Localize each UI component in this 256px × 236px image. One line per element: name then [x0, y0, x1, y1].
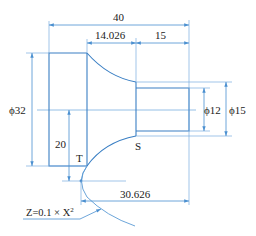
dim-15: 15: [155, 29, 167, 41]
extension-lines: [26, 20, 232, 205]
part-outline: [49, 53, 189, 166]
dim-14026: 14.026: [95, 29, 126, 41]
dim-phi32: ϕ32: [9, 104, 26, 116]
point-s-label: S: [135, 140, 141, 152]
point-t-label: T: [76, 152, 83, 164]
equation-label: Z=0.1 × X2: [26, 206, 74, 218]
dim-40: 40: [113, 11, 125, 23]
dim-phi15: ϕ15: [229, 104, 246, 116]
dim-30626: 30.626: [120, 188, 151, 200]
shaft-drawing: 40 14.026 15 ϕ32 20 ϕ12 ϕ15 30.626 T S Z…: [0, 0, 256, 236]
dim-20: 20: [55, 138, 67, 150]
dim-phi12: ϕ12: [204, 104, 221, 116]
